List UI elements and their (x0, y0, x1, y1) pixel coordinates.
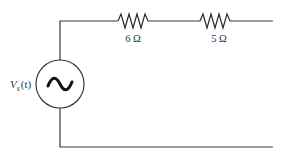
resistor-1-label: 6 Ω (125, 33, 141, 44)
circuit-diagram: 6 Ω 5 Ω Vs(t) (0, 0, 286, 157)
source-label: Vs(t) (10, 78, 32, 93)
resistor-6-ohm (118, 14, 150, 28)
resistor-2-label: 5 Ω (211, 33, 227, 44)
bottom-wire (60, 108, 273, 147)
resistor-5-ohm (200, 14, 233, 28)
top-wire-left (60, 21, 118, 60)
